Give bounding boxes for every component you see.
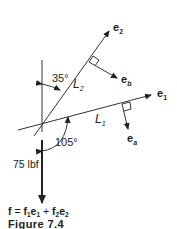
vector-label-e1: e1 xyxy=(157,87,167,101)
equation: f = f1e1 + f2e2 xyxy=(8,205,69,218)
angle-label-105: 105° xyxy=(55,136,78,148)
vector-ea-arrow xyxy=(122,104,128,129)
vector-label-e2: e2 xyxy=(113,21,123,35)
figure-caption: Figure 7.4 xyxy=(8,218,64,229)
vector-label-ea: ea xyxy=(127,132,137,146)
angle-arc-35 xyxy=(42,84,60,90)
line-L1 xyxy=(18,95,151,130)
angle-label-35: 35° xyxy=(52,72,69,84)
force-diagram: 35° 105° L2 L1 e2 eb e1 ea 75 lbf f = f1… xyxy=(0,0,177,229)
vector-eb-arrow xyxy=(89,62,117,78)
force-label: 75 lbf xyxy=(13,158,39,170)
vector-label-eb: eb xyxy=(121,73,132,87)
line-label-L1: L1 xyxy=(95,112,106,127)
line-label-L2: L2 xyxy=(73,77,84,92)
